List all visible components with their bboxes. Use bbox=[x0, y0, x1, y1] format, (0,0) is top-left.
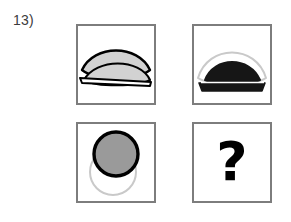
top-left-figure bbox=[78, 26, 154, 103]
question-number-label: 13) bbox=[13, 12, 34, 28]
puzzle-cell-top-left[interactable] bbox=[76, 24, 156, 105]
top-right-figure bbox=[194, 26, 270, 103]
puzzle-cell-bottom-left[interactable] bbox=[76, 122, 156, 203]
puzzle-container: 13) bbox=[0, 0, 291, 222]
puzzle-cell-answer[interactable]: ? bbox=[192, 122, 272, 203]
baseline-band-shape bbox=[199, 83, 265, 91]
front-lens-filled-shape bbox=[205, 62, 260, 85]
puzzle-cell-top-right[interactable] bbox=[192, 24, 272, 105]
bottom-left-figure bbox=[78, 124, 154, 201]
front-circle-filled-shape bbox=[94, 132, 138, 176]
question-mark-icon: ? bbox=[194, 124, 270, 201]
